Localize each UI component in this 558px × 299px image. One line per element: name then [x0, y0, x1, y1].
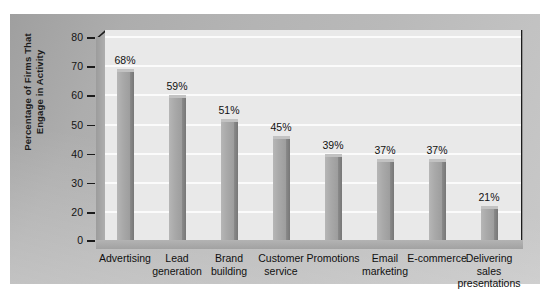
y-tick [87, 212, 95, 214]
bar: 59% [169, 98, 186, 240]
bar-front-face [117, 72, 130, 240]
y-tick-label: 20 [71, 206, 83, 218]
bar: 51% [221, 122, 238, 240]
y-tick-label: 30 [71, 177, 83, 189]
bar: 39% [325, 157, 342, 240]
bar-value-label: 68% [114, 54, 135, 66]
gridline [105, 124, 521, 126]
bar-top-face [377, 159, 394, 162]
bar: 37% [429, 162, 446, 240]
y-tick [87, 154, 95, 156]
bar-side-face [390, 159, 394, 240]
bar-front-face [429, 162, 442, 240]
bar-value-label: 21% [478, 191, 499, 203]
bar-side-face [234, 119, 238, 240]
bar-top-face [429, 159, 446, 162]
bar-value-label: 51% [218, 104, 239, 116]
y-tick-label: 60 [71, 89, 83, 101]
y-axis-title: Percentage of Firms That Engage in Activ… [22, 0, 46, 192]
bar-value-label: 39% [322, 139, 343, 151]
y-tick [87, 240, 95, 242]
plot-area [105, 30, 521, 247]
bar-top-face [481, 206, 498, 209]
gridline [105, 153, 521, 155]
bar-front-face [273, 139, 286, 240]
y-tick [87, 66, 95, 68]
bar-side-face [182, 95, 186, 240]
y-tick [87, 125, 95, 127]
y-tick-label: 40 [71, 148, 83, 160]
bar-value-label: 37% [426, 144, 447, 156]
bar: 45% [273, 139, 290, 240]
bar-top-face [169, 95, 186, 98]
bar-front-face [221, 122, 234, 240]
bar: 21% [481, 209, 498, 240]
gridline [105, 36, 521, 38]
y-tick [87, 183, 95, 185]
x-axis-labels: AdvertisingLead generationBrand building… [96, 252, 523, 298]
y-tick [87, 95, 95, 97]
gridline [105, 182, 521, 184]
bar: 68% [117, 72, 134, 240]
bar-top-face [273, 136, 290, 139]
bar-front-face [481, 209, 494, 240]
x-axis-label: Delivering sales presentations [448, 252, 530, 290]
y-tick-label: 50 [71, 119, 83, 131]
bar-side-face [442, 159, 446, 240]
y-tick-label: 80 [71, 31, 83, 43]
y-tick-label: 0 [77, 234, 83, 246]
gridline [105, 94, 521, 96]
bar-side-face [338, 154, 342, 240]
bar-top-face [325, 154, 342, 157]
bar-side-face [494, 206, 498, 240]
bar-front-face [169, 98, 182, 240]
gridline [105, 211, 521, 213]
bar-top-face [221, 119, 238, 122]
bar-side-face [130, 69, 134, 240]
y-tick [87, 37, 95, 39]
bar: 37% [377, 162, 394, 240]
bar-front-face [325, 157, 338, 240]
gridline [105, 65, 521, 67]
bar-value-label: 45% [270, 121, 291, 133]
y-tick-label: 70 [71, 60, 83, 72]
bar-side-face [286, 136, 290, 240]
plot-wrapper: 020304050607080 68%59%51%45%39%37%37%21% [96, 30, 523, 250]
bar-top-face [117, 69, 134, 72]
bar-front-face [377, 162, 390, 240]
bar-value-label: 59% [166, 80, 187, 92]
plot-floor [96, 240, 523, 249]
bar-value-label: 37% [374, 144, 395, 156]
bar-chart-figure: Percentage of Firms That Engage in Activ… [0, 0, 558, 299]
